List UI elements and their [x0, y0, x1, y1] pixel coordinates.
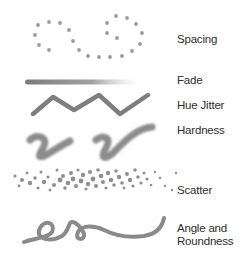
scatter-stroke: [13, 168, 177, 191]
label-hardness: Hardness: [177, 124, 225, 137]
hue-jitter-stroke: [33, 95, 148, 114]
spacing-stroke: [33, 14, 144, 59]
label-angle: Angle and: [177, 222, 227, 235]
label-roundness: Roundness: [177, 235, 233, 248]
hardness-stroke: [30, 127, 152, 157]
label-spacing: Spacing: [177, 33, 217, 46]
label-scatter: Scatter: [177, 184, 212, 197]
label-fade: Fade: [177, 74, 202, 87]
angle-roundness-stroke: [24, 218, 164, 242]
label-hue-jitter: Hue Jitter: [177, 99, 224, 112]
fade-stroke: [25, 80, 137, 85]
